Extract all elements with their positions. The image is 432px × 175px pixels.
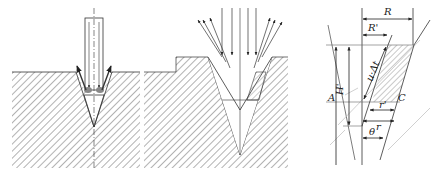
label-C: C — [398, 92, 406, 103]
label-H-prime: H' — [334, 84, 345, 96]
workpiece-material — [12, 72, 140, 168]
diagram-canvas: R R' H' u·Δt A C r' r θ — [0, 0, 432, 175]
panel-c: R R' H' u·Δt A C r' r θ — [326, 6, 430, 165]
removed-region — [372, 45, 414, 102]
label-R: R — [383, 6, 392, 17]
reflected-beam — [203, 20, 226, 62]
label-theta: θ — [369, 126, 375, 137]
label-A: A — [327, 92, 335, 103]
label-r: r — [376, 121, 382, 132]
reflected-beam — [258, 20, 275, 62]
label-r-prime: r' — [379, 99, 387, 110]
panel-a — [12, 8, 140, 168]
panel-b — [144, 8, 288, 168]
label-R-prime: R' — [367, 22, 378, 33]
